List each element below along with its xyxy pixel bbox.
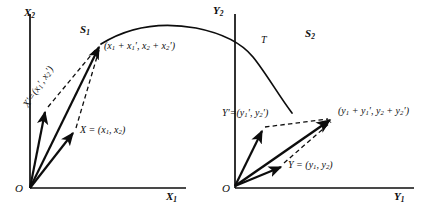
left-region-label: S1 bbox=[80, 24, 90, 36]
y-prime-vector-label: Y′=(y1′, y2′) bbox=[222, 108, 268, 119]
y-vector-label: Y = (y1, y2) bbox=[288, 160, 333, 171]
right-x-axis-label: Y1 bbox=[394, 191, 404, 203]
x-sum-vector-label: (x1 + x1′, x2 + x2′) bbox=[104, 41, 175, 52]
left-x-axis-label: X1 bbox=[166, 191, 177, 203]
left-parallelogram-dashed bbox=[48, 48, 99, 128]
right-region-label: S2 bbox=[305, 28, 315, 40]
x-prime-vector-arrow bbox=[30, 112, 45, 188]
left-vectors bbox=[30, 47, 99, 188]
dashed-from-y-prime-to-sum bbox=[265, 119, 328, 127]
y-sum-vector-label: (y1 + y1′, y2 + y2′) bbox=[338, 106, 409, 117]
right-y-axis-label: Y2 bbox=[213, 5, 223, 17]
dashed-from-y-to-sum bbox=[284, 122, 331, 163]
right-origin-label: O bbox=[222, 183, 230, 194]
figure-root: X2 X1 O S1 X′=(x1′, x2′) X = (x1, x2) (x… bbox=[0, 0, 427, 213]
x-vector-label: X = (x1, x2) bbox=[80, 125, 125, 136]
transformation-curve-label: T bbox=[261, 35, 267, 45]
left-y-axis-label: X2 bbox=[24, 7, 35, 19]
x-sum-vector-arrow bbox=[30, 47, 99, 188]
y-sum-vector-arrow bbox=[235, 120, 330, 186]
left-origin-label: O bbox=[15, 183, 23, 194]
dashed-from-x-prime-to-sum bbox=[48, 48, 97, 107]
right-vectors bbox=[235, 120, 330, 186]
